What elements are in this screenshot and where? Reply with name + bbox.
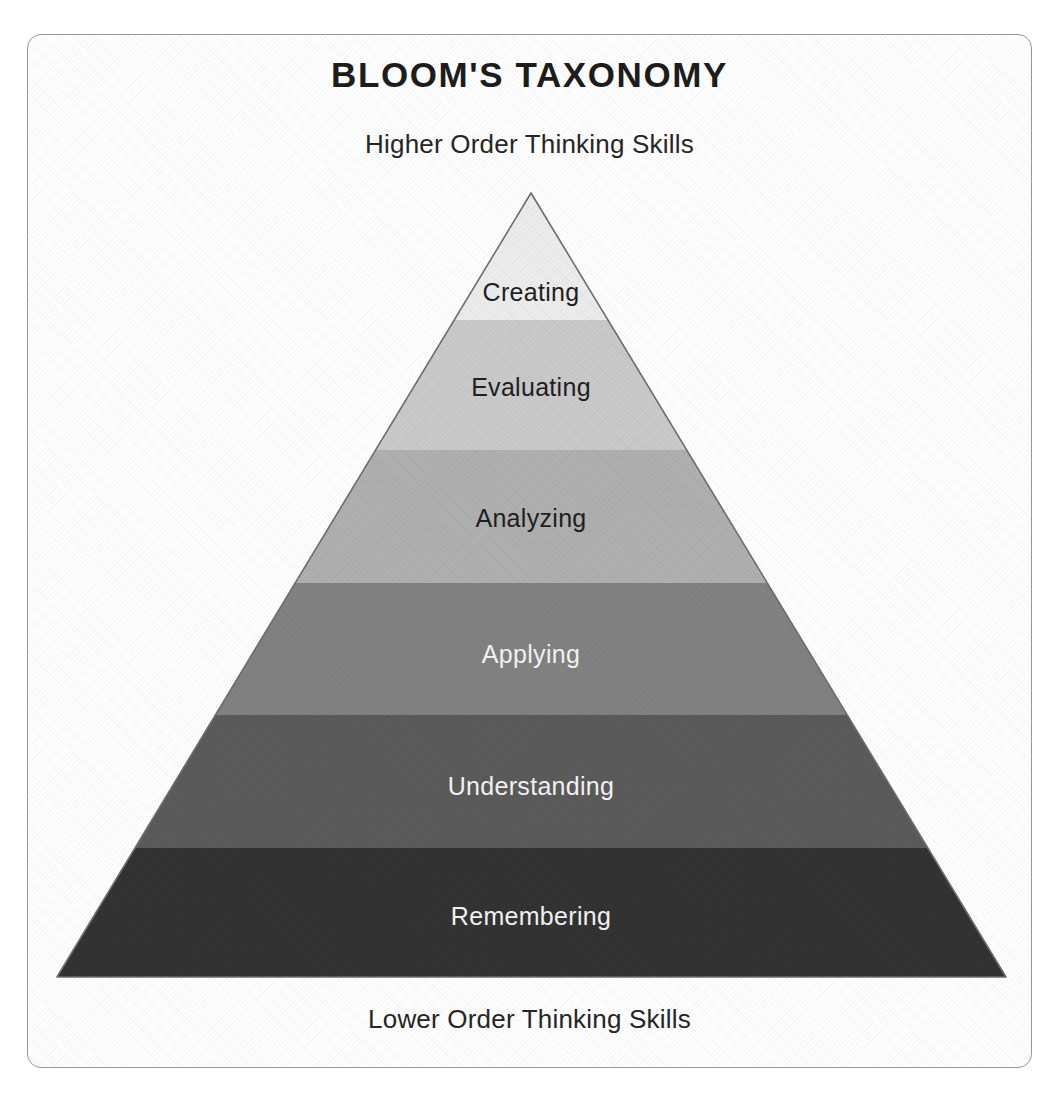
higher-order-caption: Higher Order Thinking Skills bbox=[27, 129, 1032, 160]
tier-label-applying: Applying bbox=[482, 642, 580, 667]
tier-label-creating: Creating bbox=[483, 280, 580, 305]
tier-label-understanding: Understanding bbox=[448, 774, 615, 799]
lower-order-caption: Lower Order Thinking Skills bbox=[27, 1004, 1032, 1035]
bloom-taxonomy-poster: BLOOM'S TAXONOMY Higher Order Thinking S… bbox=[0, 0, 1060, 1102]
page-title: BLOOM'S TAXONOMY bbox=[27, 56, 1032, 95]
tier-label-evaluating: Evaluating bbox=[471, 375, 591, 400]
tier-label-analyzing: Analyzing bbox=[475, 506, 586, 531]
tier-label-remembering: Remembering bbox=[451, 904, 611, 929]
title-block: BLOOM'S TAXONOMY bbox=[27, 56, 1032, 95]
